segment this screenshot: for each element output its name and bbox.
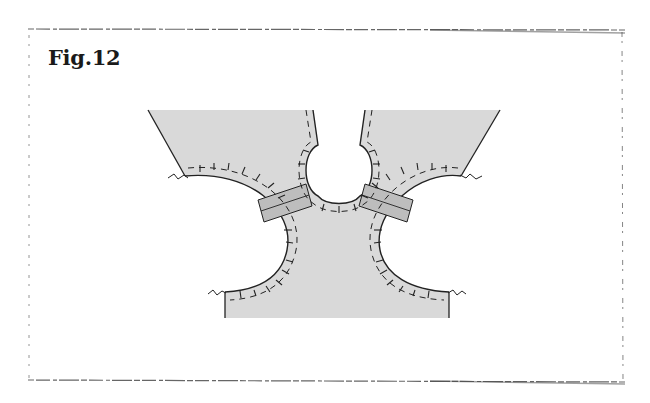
right-lower-break-mark: [448, 290, 466, 295]
sewing-pattern-diagram: [0, 0, 650, 403]
right-upper-break-mark: [460, 174, 482, 179]
bodice-fabric: [148, 110, 500, 318]
neckline-curve: [306, 110, 372, 204]
left-lower-break-mark: [208, 290, 226, 295]
